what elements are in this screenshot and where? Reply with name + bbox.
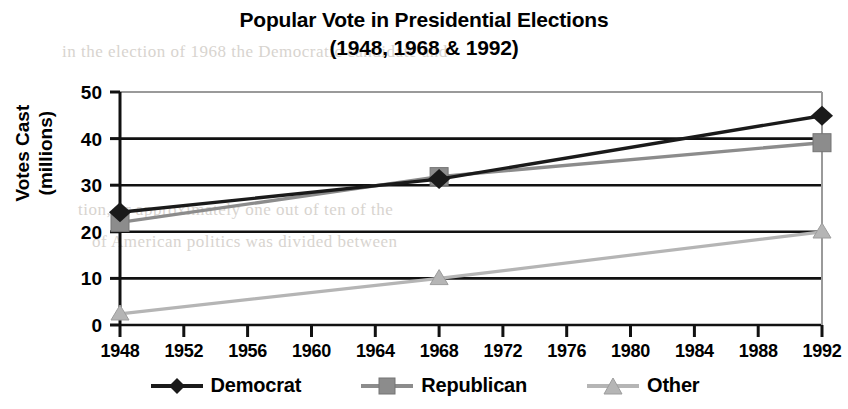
x-tick-label-1960: 1960	[280, 342, 344, 360]
x-tick-label-1980: 1980	[599, 342, 663, 360]
x-axis-ticks	[120, 325, 822, 337]
series-democrat	[109, 106, 833, 223]
square-marker-icon	[813, 134, 831, 152]
diamond-marker-icon	[149, 375, 205, 397]
legend-label-republican: Republican	[421, 374, 527, 397]
plot-area: 50 40 30 20 10 0 1948 1952 1956 1960 196…	[0, 0, 848, 409]
y-tick-label-40: 40	[56, 130, 102, 149]
y-tick-label-50: 50	[56, 83, 102, 102]
x-tick-label-1992: 1992	[790, 342, 848, 360]
legend-item-republican: Republican	[359, 374, 527, 397]
x-tick-label-1948: 1948	[88, 342, 152, 360]
x-tick-label-1972: 1972	[471, 342, 535, 360]
chart-legend: Democrat Republican Other	[0, 374, 848, 397]
triangle-marker-icon	[585, 375, 641, 397]
y-tick-label-10: 10	[56, 269, 102, 288]
x-tick-label-1968: 1968	[407, 342, 471, 360]
square-marker-icon	[359, 375, 415, 397]
chart-figure: in the election of 1968 the Democratic c…	[0, 0, 848, 409]
series-republican	[111, 134, 831, 232]
diamond-marker-icon	[811, 106, 833, 126]
y-tick-label-20: 20	[56, 223, 102, 242]
series-other	[111, 223, 831, 320]
legend-item-democrat: Democrat	[149, 374, 302, 397]
x-tick-label-1956: 1956	[216, 342, 280, 360]
legend-label-democrat: Democrat	[211, 374, 302, 397]
y-tick-label-30: 30	[56, 176, 102, 195]
y-tick-label-0: 0	[56, 316, 102, 335]
x-tick-label-1964: 1964	[343, 342, 407, 360]
x-tick-label-1988: 1988	[726, 342, 790, 360]
x-tick-label-1976: 1976	[535, 342, 599, 360]
legend-label-other: Other	[647, 374, 699, 397]
x-tick-label-1984: 1984	[662, 342, 726, 360]
x-tick-label-1952: 1952	[152, 342, 216, 360]
legend-item-other: Other	[585, 374, 699, 397]
